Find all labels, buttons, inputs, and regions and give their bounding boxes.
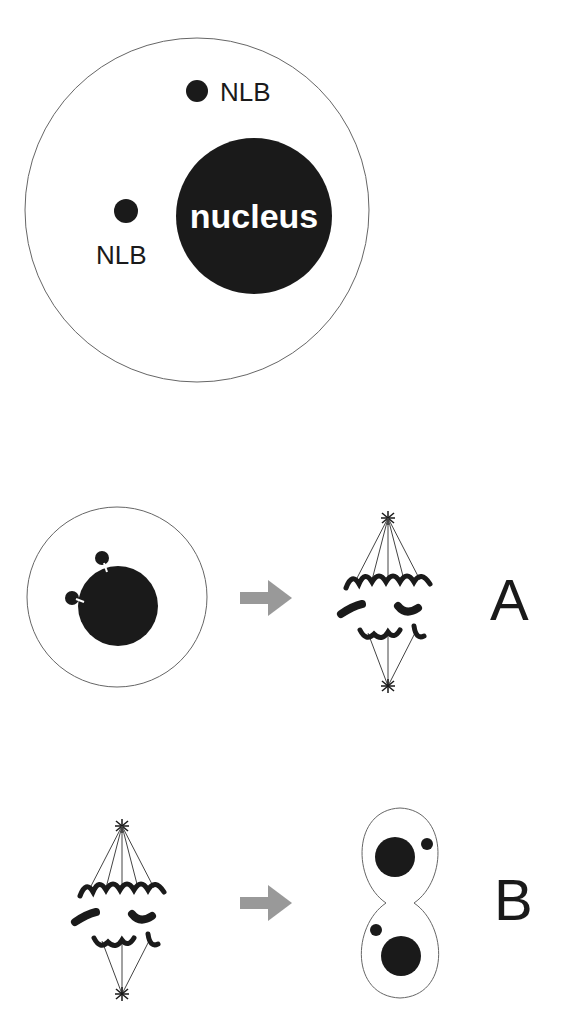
panel-b: B xyxy=(75,808,533,1001)
arrow-a xyxy=(240,580,292,616)
panel-a: A xyxy=(27,507,529,693)
figure-canvas: NLB NLB nucleus A B xyxy=(0,0,572,1034)
nlb-dot-left xyxy=(114,199,138,223)
daughter-nucleus-top xyxy=(375,837,415,877)
panel-a-nlb-top xyxy=(95,551,109,565)
daughter-nucleus-bottom xyxy=(381,936,421,976)
nlb-label-top: NLB xyxy=(220,77,271,107)
nlb-dot-top xyxy=(186,80,208,102)
nucleus-label: nucleus xyxy=(190,197,318,235)
arrow-b xyxy=(240,885,292,921)
top-cell: NLB NLB nucleus xyxy=(25,38,369,382)
nlb-top-daughter xyxy=(421,838,433,850)
panel-a-label: A xyxy=(490,567,529,632)
panel-a-nlb-left xyxy=(65,591,79,605)
panel-b-spindle xyxy=(75,819,164,1001)
nlb-label-left: NLB xyxy=(96,240,147,270)
panel-b-label: B xyxy=(494,867,533,932)
panel-a-nucleus xyxy=(78,566,158,646)
panel-a-spindle xyxy=(341,511,430,693)
nlb-bottom-daughter xyxy=(370,924,382,936)
